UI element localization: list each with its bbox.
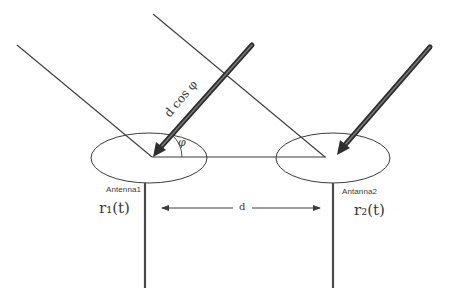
- signal-arrow-2: [337, 47, 430, 155]
- angle-label: φ: [178, 136, 186, 149]
- antenna1-label: Antenna1: [106, 185, 141, 194]
- signal2-label: r₂(t): [354, 201, 385, 219]
- antenna-diagram: d cos φ φ Antenna1 Antanna2 r₁(t) r₂(t) …: [0, 0, 450, 301]
- spacing-label: d: [239, 201, 245, 212]
- signal1-label: r₁(t): [99, 199, 130, 217]
- incident-ray-left: [17, 45, 152, 157]
- antenna2-ellipse: [276, 133, 390, 183]
- diagram-canvas: [0, 0, 450, 301]
- antenna1-ellipse: [91, 133, 207, 183]
- antenna2-label: Antanna2: [342, 187, 377, 196]
